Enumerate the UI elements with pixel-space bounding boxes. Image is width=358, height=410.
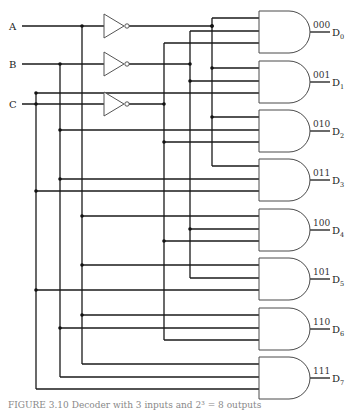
not-gate-b <box>104 52 124 76</box>
output-code-d7: 111 <box>313 366 330 376</box>
not-gate-c <box>104 92 124 116</box>
inversion-bubble <box>125 102 129 106</box>
and-gate-d5 <box>259 258 310 300</box>
output-label-d7: D7 <box>332 373 344 387</box>
output-code-d3: 011 <box>313 168 330 178</box>
output-label-d4: D4 <box>332 225 344 239</box>
output-label-d3: D3 <box>332 175 344 189</box>
input-label-c: C <box>9 99 17 110</box>
and-gate-d3 <box>259 159 310 201</box>
output-label-d2: D2 <box>332 126 344 140</box>
and-gate-d6 <box>259 308 310 350</box>
input-label-a: A <box>8 21 17 32</box>
output-code-d6: 110 <box>313 317 330 327</box>
output-code-d0: 000 <box>313 20 330 30</box>
not-gate-a <box>104 14 124 38</box>
input-label-b: B <box>9 59 16 70</box>
output-code-d2: 010 <box>313 119 330 129</box>
and-gate-d4 <box>259 209 310 251</box>
figure-caption: FIGURE 3.10 Decoder with 3 inputs and 2³… <box>8 400 261 410</box>
and-gate-d2 <box>259 110 310 152</box>
output-label-d5: D5 <box>332 274 344 288</box>
inversion-bubble <box>125 62 129 66</box>
and-gate-d1 <box>259 61 310 103</box>
inversion-bubble <box>125 24 129 28</box>
and-gates <box>259 11 310 399</box>
output-label-d1: D1 <box>332 77 344 91</box>
output-label-d6: D6 <box>332 324 344 338</box>
output-label-d0: D0 <box>332 27 344 41</box>
and-gate-d0 <box>259 11 310 53</box>
output-code-d4: 100 <box>313 218 330 228</box>
and-gate-d7 <box>259 357 310 399</box>
output-code-d5: 101 <box>313 267 330 277</box>
inverters <box>104 14 129 116</box>
output-code-d1: 001 <box>313 70 330 80</box>
junction-dots <box>34 24 214 330</box>
